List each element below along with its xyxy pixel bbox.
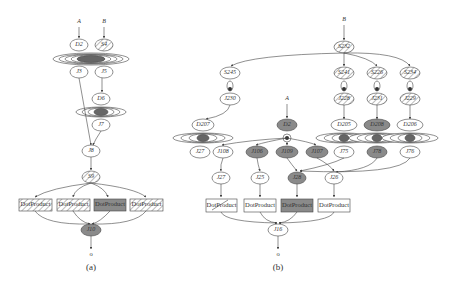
svg-text:D207: D207 — [195, 121, 210, 127]
caption-b: (b) — [273, 262, 284, 272]
dotproduct-a-3: DotProduct — [94, 199, 126, 211]
dotproduct-a-4: DotProduct — [130, 199, 163, 211]
svg-text:D2: D2 — [282, 121, 290, 127]
input-a-label-b: A — [284, 95, 289, 101]
svg-text:DotProduct: DotProduct — [132, 200, 162, 207]
svg-text:S241: S241 — [338, 69, 350, 75]
svg-text:J106: J106 — [251, 148, 263, 154]
figure-a: A B D2 S4 J3 J5 D6 J7 — [19, 18, 163, 272]
svg-text:D205: D205 — [336, 121, 350, 127]
svg-text:D206: D206 — [402, 121, 416, 127]
svg-text:DotProduct: DotProduct — [207, 201, 237, 208]
fan-band-2 — [76, 107, 126, 117]
svg-text:S245: S245 — [224, 69, 236, 75]
svg-text:J16: J16 — [274, 226, 283, 232]
svg-text:D2: D2 — [74, 41, 82, 47]
svg-text:J5: J5 — [101, 68, 107, 74]
dotproduct-b-1: DotProduct — [206, 199, 237, 212]
svg-text:S9: S9 — [88, 173, 94, 179]
svg-text:S234: S234 — [404, 69, 416, 75]
svg-text:J27: J27 — [217, 174, 227, 180]
svg-text:DotProduct: DotProduct — [59, 200, 89, 207]
svg-text:J7: J7 — [98, 121, 105, 127]
svg-text:J28: J28 — [293, 174, 302, 180]
svg-text:J75: J75 — [340, 148, 349, 154]
svg-text:D6: D6 — [96, 95, 104, 101]
svg-text:D208: D208 — [369, 121, 383, 127]
svg-text:J76: J76 — [406, 148, 415, 154]
svg-text:J230: J230 — [224, 95, 236, 101]
input-a-label: A — [76, 18, 81, 24]
svg-text:J25: J25 — [256, 174, 265, 180]
svg-text:DotProduct: DotProduct — [21, 200, 51, 207]
dotproduct-b-4: DotProduct — [318, 199, 350, 212]
svg-text:J3: J3 — [76, 68, 82, 74]
svg-text:J229: J229 — [404, 95, 416, 101]
svg-text:J109: J109 — [281, 148, 293, 154]
svg-text:J231: J231 — [371, 95, 383, 101]
svg-text:J8: J8 — [88, 147, 94, 153]
output-b: o — [276, 250, 279, 257]
svg-text:DotProduct: DotProduct — [95, 200, 125, 207]
svg-text:DotProduct: DotProduct — [245, 201, 275, 208]
svg-text:J78: J78 — [373, 148, 382, 154]
caption-a: (a) — [86, 262, 96, 272]
svg-text:J108: J108 — [217, 148, 229, 154]
dotproduct-b-3: DotProduct — [281, 199, 313, 212]
dotproduct-a-1: DotProduct — [19, 199, 52, 211]
svg-text:S4: S4 — [101, 41, 107, 47]
svg-text:J26: J26 — [330, 174, 339, 180]
loop-connectors — [227, 81, 413, 91]
input-b-label: B — [102, 18, 106, 24]
svg-text:S232: S232 — [338, 43, 350, 49]
svg-text:J27: J27 — [196, 148, 206, 154]
input-b-label-b: B — [342, 16, 346, 22]
dataflow-figure: A B D2 S4 J3 J5 D6 J7 — [0, 0, 457, 289]
svg-text:DotProduct: DotProduct — [319, 201, 349, 208]
fan-band-1 — [53, 53, 129, 65]
figure-b: B S232 S245 S241 S226 S234 J230 J228 J23… — [173, 16, 438, 272]
svg-text:DotProduct: DotProduct — [282, 201, 312, 208]
dotproduct-b-2: DotProduct — [244, 199, 276, 212]
svg-text:J10: J10 — [87, 226, 96, 232]
svg-text:J228: J228 — [338, 95, 350, 101]
dotproduct-a-2: DotProduct — [57, 199, 90, 211]
svg-text:J107: J107 — [311, 148, 324, 154]
output-a: o — [89, 250, 92, 257]
svg-text:S226: S226 — [371, 69, 383, 75]
